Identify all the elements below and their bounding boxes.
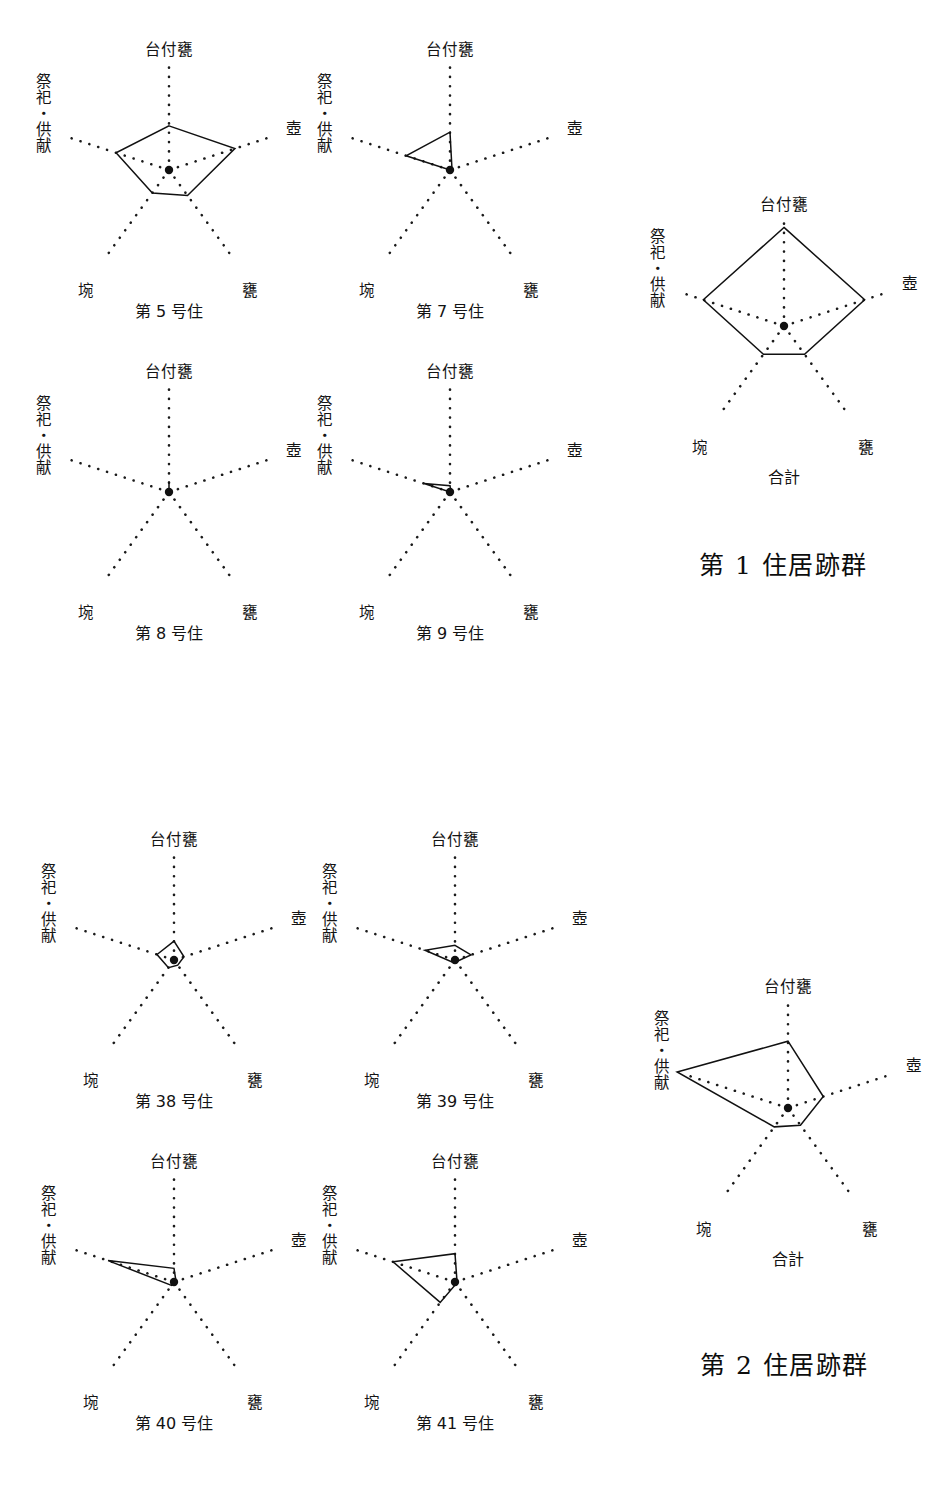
- axis-label-kame: 甕: [247, 1390, 263, 1412]
- radar-chart: 台付甕壺甕埦祭祀・供献第 5 号住: [38, 39, 300, 301]
- chart-caption-total: 合計: [698, 1246, 878, 1270]
- upper-right-axis: [169, 460, 269, 492]
- axis-label-saishi-kuken: 祭祀・供献: [648, 228, 664, 308]
- chart-caption: 第 38 号住: [84, 1088, 264, 1112]
- radar-data-polygon: [425, 945, 471, 962]
- axis-label-daitsuki-kame: 台付甕: [422, 1149, 488, 1171]
- chart-caption: 第 39 号住: [365, 1088, 545, 1112]
- axis-label-daitsuki-kame: 台付甕: [136, 359, 202, 381]
- lower-right-axis: [450, 492, 512, 577]
- radar-plot-area: [319, 361, 581, 623]
- radar-data-polygon: [703, 227, 864, 354]
- axis-label-wan: 埦: [83, 1390, 99, 1412]
- upper-right-axis: [450, 460, 550, 492]
- radar-plot-area: [656, 976, 920, 1240]
- chart-caption: 第 9 号住: [360, 620, 540, 644]
- upper-right-axis: [174, 928, 274, 960]
- axis-label-tsubo: 壺: [567, 116, 583, 138]
- axis-label-kame: 甕: [242, 278, 258, 300]
- radar-chart: 台付甕壺甕埦祭祀・供献第 40 号住: [43, 1151, 305, 1413]
- axis-label-wan: 埦: [364, 1068, 380, 1090]
- radar-plot-area: [43, 829, 305, 1091]
- radar-plot-area: [324, 829, 586, 1091]
- axis-label-tsubo: 壺: [286, 116, 302, 138]
- radar-plot-area: [652, 194, 916, 458]
- axis-label-kame: 甕: [528, 1068, 544, 1090]
- axis-label-saishi-kuken: 祭祀・供献: [39, 863, 55, 943]
- radar-center-dot: [784, 1104, 792, 1112]
- chart-caption: 第 41 号住: [365, 1410, 545, 1434]
- lower-left-axis: [722, 326, 784, 412]
- chart-caption-total: 合計: [694, 464, 874, 488]
- axis-label-daitsuki-kame: 台付甕: [417, 37, 483, 59]
- axis-label-wan: 埦: [696, 1217, 712, 1239]
- radar-center-dot: [170, 1278, 178, 1286]
- chart-caption: 第 8 号住: [79, 620, 259, 644]
- upper-right-axis: [450, 138, 550, 170]
- lower-right-axis: [174, 960, 236, 1045]
- axis-label-daitsuki-kame: 台付甕: [417, 359, 483, 381]
- lower-right-axis: [174, 1282, 236, 1367]
- axis-label-daitsuki-kame: 台付甕: [136, 37, 202, 59]
- radar-plot-area: [324, 1151, 586, 1413]
- axis-label-tsubo: 壺: [902, 271, 918, 293]
- radar-data-polygon: [677, 1041, 823, 1127]
- lower-right-axis: [788, 1108, 850, 1194]
- upper-left-axis: [355, 928, 455, 960]
- axis-label-tsubo: 壺: [286, 438, 302, 460]
- radar-center-dot: [446, 488, 454, 496]
- axis-label-wan: 埦: [83, 1068, 99, 1090]
- axis-label-saishi-kuken: 祭祀・供献: [320, 1185, 336, 1265]
- axis-label-kame: 甕: [528, 1390, 544, 1412]
- axis-label-tsubo: 壺: [291, 906, 307, 928]
- radar-chart-total: 台付甕壺甕埦祭祀・供献合計: [652, 194, 916, 458]
- upper-right-axis: [784, 293, 885, 326]
- axis-label-daitsuki-kame: 台付甕: [751, 192, 817, 214]
- chart-caption: 第 7 号住: [360, 298, 540, 322]
- radar-plot-area: [38, 39, 300, 301]
- radar-center-dot: [170, 956, 178, 964]
- axis-label-saishi-kuken: 祭祀・供献: [652, 1010, 668, 1090]
- chart-caption: 第 5 号住: [79, 298, 259, 322]
- upper-right-axis: [455, 1250, 555, 1282]
- axis-label-wan: 埦: [692, 435, 708, 457]
- upper-left-axis: [74, 1250, 174, 1282]
- axis-label-tsubo: 壺: [906, 1053, 922, 1075]
- radar-plot-area: [319, 39, 581, 301]
- axis-label-wan: 埦: [78, 278, 94, 300]
- axis-label-kame: 甕: [242, 600, 258, 622]
- axis-label-daitsuki-kame: 台付甕: [141, 827, 207, 849]
- radar-plot-area: [43, 1151, 305, 1413]
- axis-label-saishi-kuken: 祭祀・供献: [34, 73, 50, 153]
- radar-plot-area: [38, 361, 300, 623]
- lower-right-axis: [455, 1282, 517, 1367]
- radar-center-dot: [446, 166, 454, 174]
- radar-data-polygon: [406, 132, 452, 170]
- axis-label-tsubo: 壺: [291, 1228, 307, 1250]
- radar-chart: 台付甕壺甕埦祭祀・供献第 38 号住: [43, 829, 305, 1091]
- axis-label-saishi-kuken: 祭祀・供献: [39, 1185, 55, 1265]
- radar-center-dot: [451, 1278, 459, 1286]
- upper-left-axis: [69, 460, 169, 492]
- axis-label-saishi-kuken: 祭祀・供献: [320, 863, 336, 943]
- upper-right-axis: [788, 1075, 889, 1108]
- lower-left-axis: [107, 170, 169, 255]
- radar-chart: 台付甕壺甕埦祭祀・供献第 7 号住: [319, 39, 581, 301]
- lower-left-axis: [388, 170, 450, 255]
- radar-center-dot: [451, 956, 459, 964]
- lower-right-axis: [455, 960, 517, 1045]
- upper-right-axis: [174, 1250, 274, 1282]
- lower-left-axis: [388, 492, 450, 577]
- radar-chart: 台付甕壺甕埦祭祀・供献第 39 号住: [324, 829, 586, 1091]
- axis-label-wan: 埦: [78, 600, 94, 622]
- lower-left-axis: [726, 1108, 788, 1194]
- axis-label-daitsuki-kame: 台付甕: [141, 1149, 207, 1171]
- radar-chart-total: 台付甕壺甕埦祭祀・供献合計: [656, 976, 920, 1240]
- axis-label-saishi-kuken: 祭祀・供献: [34, 395, 50, 475]
- axis-label-tsubo: 壺: [572, 1228, 588, 1250]
- axis-label-daitsuki-kame: 台付甕: [422, 827, 488, 849]
- axis-label-wan: 埦: [359, 600, 375, 622]
- axis-label-wan: 埦: [359, 278, 375, 300]
- axis-label-kame: 甕: [523, 600, 539, 622]
- radar-data-polygon: [116, 126, 235, 196]
